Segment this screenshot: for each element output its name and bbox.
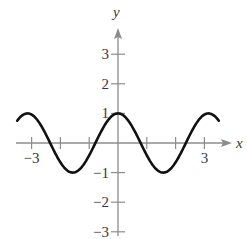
- y-tick-label: 3: [102, 46, 110, 62]
- cosine-graph: −33 321−1−2−3 x y: [0, 0, 247, 239]
- x-tick-label: 3: [201, 150, 209, 166]
- y-tick-label: −3: [93, 224, 109, 239]
- y-tick-label: −1: [93, 165, 109, 181]
- y-tick-label: −2: [93, 194, 109, 210]
- x-tick-label: −3: [24, 150, 40, 166]
- x-axis-label: x: [235, 135, 243, 151]
- y-axis-label: y: [111, 4, 120, 20]
- y-tick-label: 2: [102, 76, 110, 92]
